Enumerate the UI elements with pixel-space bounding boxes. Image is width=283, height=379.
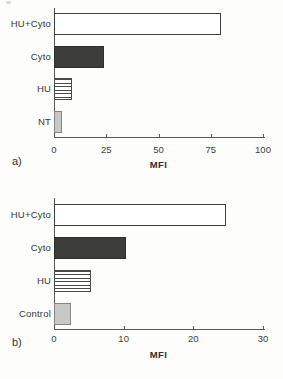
category-label-hu-cyto: HU+Cyto bbox=[0, 18, 51, 30]
x-tick-mark-100 bbox=[263, 134, 264, 138]
x-tick-label-0: 0 bbox=[51, 333, 56, 344]
category-label-cyto: Cyto bbox=[0, 242, 51, 254]
x-tick-mark-50 bbox=[159, 134, 160, 138]
x-tick-label-75: 75 bbox=[205, 144, 216, 155]
chart-panel-b: HU+CytoCytoHUControl 0102030 MFI b) bbox=[0, 190, 283, 379]
bar-cyto bbox=[54, 46, 104, 68]
x-tick-mark-75 bbox=[211, 134, 212, 138]
bar-hu bbox=[54, 270, 91, 292]
x-axis-title-a: MFI bbox=[54, 159, 263, 170]
figure: HU+CytoCytoHUNT 0255075100 MFI a) HU+Cyt… bbox=[0, 0, 283, 379]
x-tick-label-100: 100 bbox=[255, 144, 271, 155]
x-tick-label-10: 10 bbox=[118, 333, 129, 344]
category-label-hu-cyto: HU+Cyto bbox=[0, 209, 51, 221]
category-label-nt: NT bbox=[0, 116, 51, 128]
chart-panel-a: HU+CytoCytoHUNT 0255075100 MFI a) bbox=[0, 0, 283, 190]
bar-nt bbox=[54, 111, 62, 133]
bar-hu-cyto bbox=[54, 13, 221, 35]
category-label-cyto: Cyto bbox=[0, 51, 51, 63]
bar-cyto bbox=[54, 237, 126, 259]
x-tick-label-50: 50 bbox=[153, 144, 164, 155]
bar-hu bbox=[54, 78, 72, 100]
x-tick-mark-10 bbox=[124, 326, 125, 330]
panel-label-a: a) bbox=[12, 155, 22, 167]
x-tick-label-25: 25 bbox=[101, 144, 112, 155]
panel-label-b: b) bbox=[12, 336, 22, 348]
category-labels-a: HU+CytoCytoHUNT bbox=[0, 8, 51, 138]
bar-hu-cyto bbox=[54, 204, 226, 226]
x-axis-title-b: MFI bbox=[54, 349, 263, 360]
x-tick-mark-20 bbox=[193, 326, 194, 330]
category-label-hu: HU bbox=[0, 275, 51, 287]
category-label-hu: HU bbox=[0, 83, 51, 95]
x-tick-labels-b: 0102030 bbox=[54, 333, 263, 345]
plot-area-b bbox=[54, 198, 263, 330]
x-tick-label-0: 0 bbox=[51, 144, 56, 155]
x-tick-label-20: 20 bbox=[188, 333, 199, 344]
x-tick-labels-a: 0255075100 bbox=[54, 144, 263, 156]
x-tick-mark-25 bbox=[106, 134, 107, 138]
bar-control bbox=[54, 303, 71, 325]
plot-area-a bbox=[54, 8, 263, 138]
x-tick-label-30: 30 bbox=[258, 333, 269, 344]
category-labels-b: HU+CytoCytoHUControl bbox=[0, 198, 51, 330]
x-axis-line-a bbox=[54, 137, 265, 138]
category-label-control: Control bbox=[0, 308, 51, 320]
x-tick-mark-30 bbox=[263, 326, 264, 330]
x-axis-line-b bbox=[54, 329, 265, 330]
